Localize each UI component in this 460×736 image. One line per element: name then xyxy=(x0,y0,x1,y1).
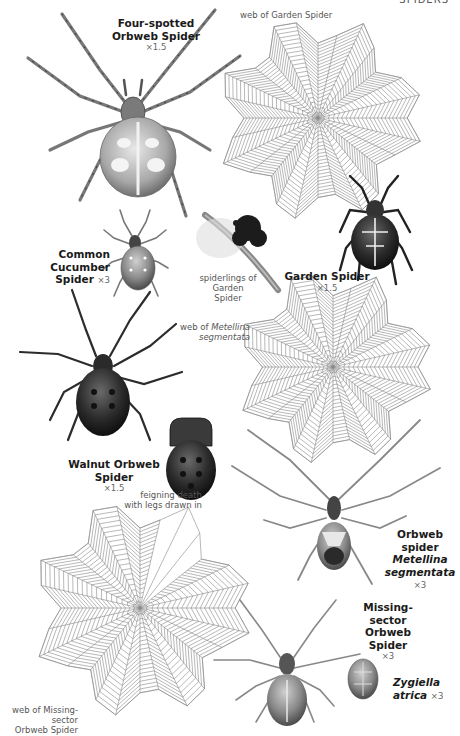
label-line: Orbweb Spider xyxy=(106,30,206,43)
garden-web-caption: web of Garden Spider xyxy=(240,10,332,20)
metellina-segmentata-label: Orbweb spider Metellina segmentata ×3 xyxy=(380,528,460,591)
label-line: Garden Spider xyxy=(198,283,258,303)
scale-factor: ×3 xyxy=(97,275,110,285)
label-line: Common Cucumber xyxy=(18,248,110,273)
scale-factor: ×1.5 xyxy=(282,283,372,293)
garden-spider-label: Garden Spider ×1.5 xyxy=(282,270,372,293)
scale-factor: ×3 xyxy=(414,580,427,590)
label-line: Orbweb spider xyxy=(380,528,460,553)
species-name: Metellina xyxy=(211,322,250,332)
label-line: Orbweb Spider xyxy=(348,626,428,651)
label-line: Garden Spider xyxy=(282,270,372,283)
label-line: web of xyxy=(180,322,211,332)
species-name: Metellina xyxy=(380,553,460,566)
species-name: atrica xyxy=(393,689,427,701)
species-name: Zygiella xyxy=(393,676,453,689)
scale-factor: ×3 xyxy=(348,651,428,661)
four-spotted-orbweb-label: Four-spotted Orbweb Spider ×1.5 xyxy=(106,17,206,52)
label-line: Four-spotted xyxy=(106,17,206,30)
missing-sector-web-caption: web of Missing-sector Orbweb Spider xyxy=(0,705,78,736)
label-line: feigning death xyxy=(112,490,202,500)
label-line: Walnut Orbweb Spider xyxy=(54,458,174,483)
scale-factor: ×3 xyxy=(431,691,444,701)
spiderlings-caption: spiderlings of Garden Spider xyxy=(198,273,258,304)
label-line: spiderlings of xyxy=(198,273,258,283)
species-name: segmentata xyxy=(180,332,250,342)
species-name: segmentata xyxy=(385,566,456,578)
label-line: Orbweb Spider xyxy=(0,725,78,735)
walnut-orbweb-label: Walnut Orbweb Spider ×1.5 xyxy=(54,458,174,493)
label-line: with legs drawn in xyxy=(112,500,202,510)
label-line: web of Missing-sector xyxy=(0,705,78,725)
missing-sector-label: Missing-sector Orbweb Spider ×3 xyxy=(348,601,428,662)
label-line: Missing-sector xyxy=(348,601,428,626)
label-line: Spider xyxy=(55,273,94,285)
zygiella-atrica-label: Zygiella atrica ×3 xyxy=(393,676,453,701)
feigning-death-caption: feigning death with legs drawn in xyxy=(112,490,202,510)
scale-factor: ×1.5 xyxy=(106,42,206,52)
common-cucumber-label: Common Cucumber Spider ×3 xyxy=(18,248,110,286)
metellina-web-caption: web of Metellina segmentata xyxy=(180,322,250,342)
